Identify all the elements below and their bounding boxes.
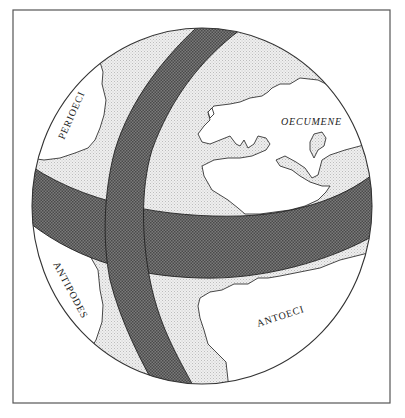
globe: [20, 20, 390, 400]
label-oecumene: OECUMENE: [281, 116, 342, 127]
globe-figure: PERIOECI OECUMENE ANTIPODES ANTOECI: [0, 0, 405, 418]
